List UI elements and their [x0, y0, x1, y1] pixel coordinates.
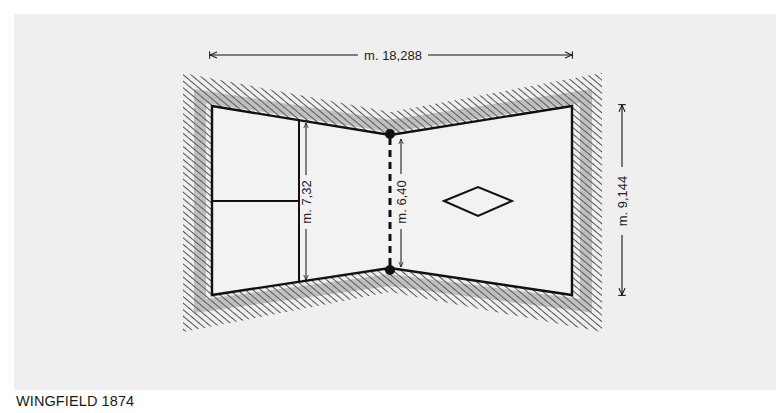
figure-caption: WINGFIELD 1874	[16, 393, 134, 409]
service-line-width-label: m. 7,32	[299, 180, 314, 223]
net-width-label: m. 6,40	[394, 180, 409, 223]
net-post-bottom	[385, 265, 395, 275]
dimension-overall-length: m. 18,288	[210, 48, 572, 63]
net-post-top	[385, 129, 395, 139]
dimension-baseline-width: m. 9,144	[615, 105, 630, 295]
overall-length-label: m. 18,288	[364, 48, 422, 63]
baseline-width-label: m. 9,144	[615, 176, 630, 227]
court-diagram: m. 18,288 m. 7,32 m. 6,40 m. 9,144	[0, 0, 780, 413]
